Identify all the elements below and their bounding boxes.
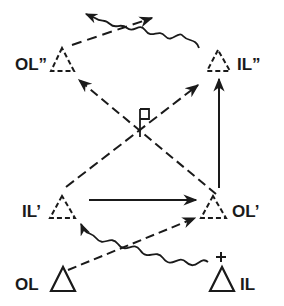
edge-OL-prime-to-OL-double-prime xyxy=(79,80,216,194)
label-IL-prime: IL’ xyxy=(22,203,41,220)
edge-IL-prime-to-IL-double-prime xyxy=(66,85,198,187)
triangle-IL-prime xyxy=(50,196,75,218)
label-IL-double-prime: IL” xyxy=(237,56,261,73)
label-OL-prime: OL’ xyxy=(232,203,259,220)
energy-transfer-diagram: OL IL IL’ OL’ OL” IL” xyxy=(0,0,284,306)
diagram-canvas xyxy=(0,0,284,306)
edge-IL-to-IL-prime-wavy xyxy=(81,224,208,265)
triangle-IL-double-prime xyxy=(207,50,230,71)
label-OL: OL xyxy=(15,276,39,293)
triangle-OL-double-prime xyxy=(51,48,74,71)
label-OL-double-prime: OL” xyxy=(15,56,47,73)
label-IL: IL xyxy=(240,276,255,293)
edge-OL-to-OL-prime xyxy=(68,218,195,270)
triangle-IL xyxy=(210,267,234,291)
plus-charge-icon xyxy=(216,252,226,262)
triangle-OL-prime xyxy=(201,196,226,218)
edge-IL-double-prime-outgoing-wavy xyxy=(86,14,199,48)
triangle-OL xyxy=(51,267,75,291)
edge-OL-double-prime-outgoing xyxy=(72,18,152,45)
flag-icon xyxy=(140,109,149,137)
